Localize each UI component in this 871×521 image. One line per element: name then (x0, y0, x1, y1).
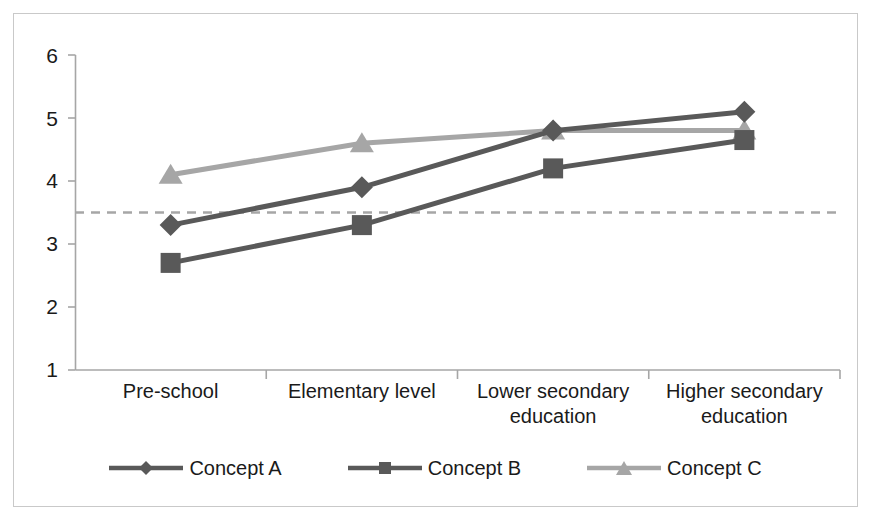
legend-item-concept-a: Concept A (109, 458, 281, 478)
marker-diamond (733, 101, 755, 123)
x-category-label-1: Pre-school (75, 379, 266, 449)
plot-area (75, 55, 840, 371)
x-category-label-2: Elementary level (266, 379, 457, 449)
legend-item-concept-b: Concept B (348, 458, 521, 478)
series-plot (75, 55, 850, 381)
y-tick-label-5: 5 (46, 108, 58, 129)
legend-label-concept-a: Concept A (189, 458, 281, 478)
marker-diamond (351, 176, 373, 198)
x-axis: Pre-school Elementary level Lower second… (75, 379, 840, 449)
chart-legend: Concept A Concept B Concept C (13, 458, 858, 478)
marker-diamond (160, 214, 182, 236)
legend-label-concept-c: Concept C (667, 458, 762, 478)
marker-square (161, 253, 181, 273)
legend-swatch-diamond-icon (109, 459, 183, 477)
x-category-label-4: Higher secondary education (649, 379, 840, 449)
x-category-label-3: Lower secondary education (458, 379, 649, 449)
series-concept-a (160, 101, 756, 236)
marker-square (543, 158, 563, 178)
y-tick-label-1: 1 (46, 359, 58, 380)
y-axis: 6 5 4 3 2 1 (26, 0, 58, 521)
legend-swatch-square-icon (348, 459, 422, 477)
y-tick-label-4: 4 (46, 170, 58, 191)
legend-item-concept-c: Concept C (587, 458, 762, 478)
y-tick-label-3: 3 (46, 233, 58, 254)
series-concept-b (161, 130, 755, 273)
legend-swatch-triangle-icon (587, 459, 661, 477)
marker-square (352, 215, 372, 235)
chart-screenshot: 6 5 4 3 2 1 (0, 0, 871, 521)
y-tick-label-2: 2 (46, 296, 58, 317)
marker-square (734, 130, 754, 150)
legend-label-concept-b: Concept B (428, 458, 521, 478)
y-tick-label-6: 6 (46, 45, 58, 66)
